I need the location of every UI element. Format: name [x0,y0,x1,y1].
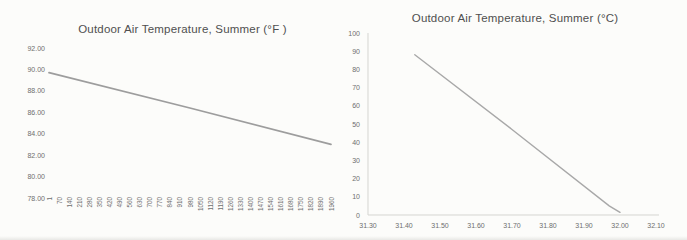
temperature-series-line [49,73,331,145]
x-tick-label: 70 [56,197,63,205]
x-tick-label: 1680 [287,197,294,212]
scanned-page: Outdoor Air Temperature, Summer (°F ) 78… [0,0,687,240]
y-tick-label: 60 [352,102,360,109]
x-tick-label: 560 [126,197,133,208]
x-tick-label: 630 [136,197,143,208]
x-tick-label: 1190 [217,197,224,211]
x-tick-label: 700 [146,197,153,208]
temperature-series-line [415,55,620,213]
x-tick-label: 210 [76,197,83,208]
x-tick-label: 350 [96,197,103,208]
y-tick-label: 86.00 [27,109,45,116]
x-tick-label: 32.00 [611,222,629,229]
y-tick-label: 10 [352,193,360,200]
x-tick-label: 1260 [227,197,234,212]
x-tick-label: 840 [166,197,173,208]
x-tick-label: 1470 [257,197,264,212]
x-tick-label: 31.80 [539,222,557,229]
y-tick-label: 50 [352,121,360,128]
x-tick-label: 420 [106,197,113,208]
fahrenheit-chart-plot-area: 78.0080.0082.0084.0086.0088.0090.0092.00… [0,0,343,240]
y-tick-label: 90.00 [27,66,45,73]
x-tick-label: 1 [46,197,53,201]
celsius-chart-plot-area: 010203040506070809010031.3031.4031.5031.… [343,0,687,240]
x-tick-label: 1120 [207,197,214,211]
x-tick-label: 31.90 [575,222,593,229]
y-tick-label: 80 [352,66,360,73]
y-tick-label: 70 [352,84,360,91]
x-tick-label: 1960 [328,197,335,212]
x-tick-label: 770 [156,197,163,208]
x-tick-label: 1540 [267,197,274,212]
y-tick-label: 0 [356,212,360,219]
x-tick-label: 1750 [297,197,304,212]
x-tick-label: 1400 [247,197,254,212]
y-tick-label: 88.00 [27,87,45,94]
x-tick-label: 1610 [277,197,284,212]
x-tick-label: 910 [176,197,183,208]
x-tick-label: 140 [66,197,73,208]
x-tick-label: 1330 [237,197,244,212]
x-tick-label: 31.60 [467,222,485,229]
y-tick-label: 80.00 [27,173,45,180]
y-tick-label: 82.00 [27,152,45,159]
x-tick-label: 31.70 [503,222,521,229]
fahrenheit-chart: Outdoor Air Temperature, Summer (°F ) 78… [0,0,343,240]
y-tick-label: 84.00 [27,130,45,137]
x-tick-label: 980 [187,197,194,208]
x-tick-label: 1820 [307,197,314,212]
y-tick-label: 40 [352,139,360,146]
celsius-chart: Outdoor Air Temperature, Summer (°C) 010… [343,0,687,240]
chart-title-fahrenheit: Outdoor Air Temperature, Summer (°F ) [11,23,354,35]
y-tick-label: 78.00 [27,195,45,202]
x-tick-label: 280 [86,197,93,208]
y-tick-label: 30 [352,157,360,164]
x-tick-label: 1890 [317,197,324,212]
y-tick-label: 90 [352,48,360,55]
x-tick-label: 490 [116,197,123,208]
x-tick-label: 31.30 [359,222,377,229]
y-tick-label: 92.00 [27,45,45,52]
x-tick-label: 32.10 [647,222,665,229]
x-tick-label: 31.50 [431,222,449,229]
x-tick-label: 1050 [197,197,204,212]
y-tick-label: 20 [352,175,360,182]
chart-title-celsius: Outdoor Air Temperature, Summer (°C) [343,12,687,24]
x-tick-label: 31.40 [395,222,413,229]
